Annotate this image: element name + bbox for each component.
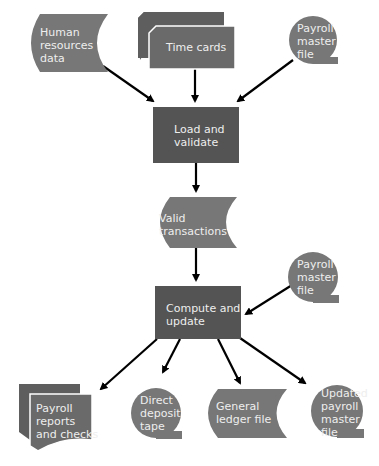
- node-hr-data[interactable]: Human resources data: [31, 14, 108, 72]
- node-label-line: Updated: [321, 387, 368, 400]
- edge-compute-to-deposit: [163, 339, 180, 372]
- node-direct-deposit-tape[interactable]: Direct deposit tape: [131, 388, 182, 439]
- node-label-line: ledger file: [216, 413, 272, 426]
- node-label-line: deposit: [140, 407, 181, 420]
- node-label-line: file: [321, 426, 338, 439]
- node-label-line: payroll: [321, 400, 358, 413]
- node-label-line: Valid: [159, 212, 186, 225]
- node-label-line: reports: [36, 415, 76, 428]
- node-label-line: Compute and: [166, 302, 240, 315]
- node-label-line: master: [297, 35, 336, 48]
- edge-hr-to-load: [103, 66, 153, 101]
- edge-compute-to-updated: [240, 338, 305, 383]
- node-label-line: Direct: [140, 394, 174, 407]
- node-load-and-validate[interactable]: Load and validate: [153, 107, 239, 163]
- node-label-line: Load and: [174, 123, 225, 136]
- node-label-line: resources: [40, 39, 94, 52]
- node-valid-transactions[interactable]: Valid transactions: [159, 197, 237, 248]
- node-compute-and-update[interactable]: Compute and update: [155, 286, 241, 339]
- node-general-ledger-file[interactable]: General ledger file: [208, 389, 287, 438]
- node-label-line: General: [216, 400, 259, 413]
- node-label-line: tape: [140, 420, 165, 433]
- node-label-line: transactions: [159, 225, 227, 238]
- tape-tail-shape: [337, 429, 364, 438]
- edge-master-to-load: [238, 60, 293, 101]
- node-label-line: file: [297, 284, 314, 297]
- node-payroll-master-file-2[interactable]: Payroll master file: [288, 252, 339, 303]
- edge-compute-to-reports: [101, 339, 157, 389]
- node-label-line: Payroll: [297, 22, 334, 35]
- node-label-line: Payroll: [297, 258, 334, 271]
- payroll-flowchart: Human resources data Time cards Payroll …: [0, 0, 379, 466]
- node-payroll-reports-and-checks[interactable]: Payroll reports and checks: [19, 384, 98, 451]
- node-label-line: Human: [40, 26, 80, 39]
- node-payroll-master-file[interactable]: Payroll master file: [289, 16, 338, 64]
- node-label-line: and checks: [36, 428, 98, 441]
- node-label-line: master: [321, 413, 360, 426]
- node-updated-payroll-master-file[interactable]: Updated payroll master file: [311, 385, 368, 439]
- tape-tail-shape: [313, 57, 338, 64]
- node-label-line: validate: [174, 136, 218, 149]
- node-label-line: data: [40, 52, 65, 65]
- node-label-line: Time cards: [165, 41, 227, 54]
- node-label-line: Payroll: [36, 402, 73, 415]
- node-time-cards[interactable]: Time cards: [138, 12, 235, 69]
- tape-tail-shape: [313, 295, 339, 303]
- edge-compute-to-ledger: [218, 339, 240, 383]
- node-label-line: file: [297, 48, 314, 61]
- node-label-line: update: [166, 315, 205, 328]
- node-label-line: master: [297, 271, 336, 284]
